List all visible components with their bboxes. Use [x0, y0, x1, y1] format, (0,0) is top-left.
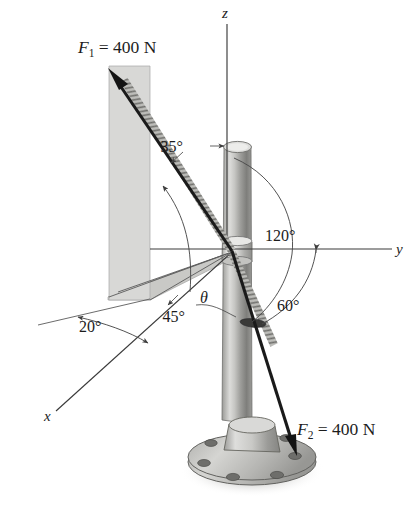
force-f2-equals: =: [318, 419, 328, 439]
force-f1-equals: =: [99, 37, 109, 57]
force-f2-label: F2 = 400 N: [296, 419, 376, 441]
force-f2-unit: N: [363, 419, 376, 439]
force-f1-symbol: F: [77, 37, 89, 57]
force-f2-symbol: F: [296, 419, 308, 439]
statics-diagram: F1 = 400 N F2 = 400 N z y x 35° 120° 60°…: [0, 0, 415, 514]
force-f2-magnitude: 400: [332, 419, 359, 439]
angle-45-tick: [168, 295, 178, 305]
angle-20-label: 20°: [79, 318, 101, 335]
flange-hub-top: [229, 417, 275, 433]
z-axis-label: z: [221, 5, 228, 21]
angle-35-label: 35°: [161, 138, 183, 155]
y-axis-label: y: [394, 241, 403, 257]
bolt-hole: [205, 440, 217, 447]
pole-top-cap-inner: [227, 143, 248, 151]
angle-45-label: 45°: [163, 308, 185, 325]
force-f1-unit: N: [144, 37, 157, 57]
figure-root: F1 = 400 N F2 = 400 N z y x 35° 120° 60°…: [0, 0, 415, 514]
force-f1-label: F1 = 400 N: [77, 37, 157, 59]
angle-120-label: 120°: [265, 227, 295, 244]
x-axis-label: x: [43, 408, 51, 424]
bolt-hole: [226, 473, 239, 480]
bolt-hole: [289, 453, 302, 460]
angle-theta-label: θ: [200, 289, 208, 306]
bolt-hole: [198, 460, 211, 467]
bolt-hole: [270, 471, 283, 478]
force-f1-magnitude: 400: [113, 37, 140, 57]
angle-60-label: 60°: [277, 297, 299, 314]
